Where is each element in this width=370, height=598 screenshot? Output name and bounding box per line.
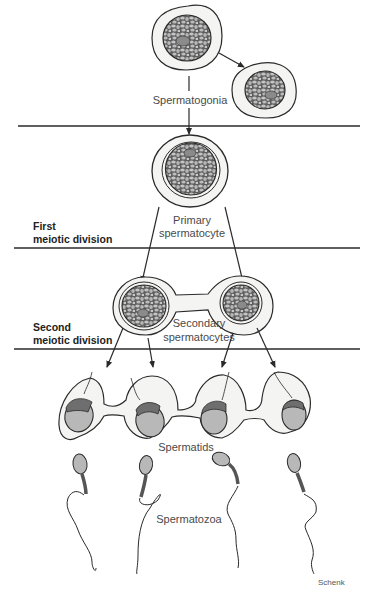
- credit-author: Schenk: [318, 578, 346, 587]
- arrow-to-secondary-left: [142, 207, 159, 282]
- label-secondary-line1: Secondary: [173, 317, 226, 329]
- spermatozoon-4: [286, 452, 317, 574]
- arrow-to-spermatid-4: [257, 328, 275, 367]
- arrow-division: [219, 53, 244, 67]
- spermatogonium-cell-1: [152, 5, 222, 70]
- phase-second-line2: meiotic division: [33, 334, 112, 346]
- phase-first-line1: First: [33, 220, 56, 232]
- phase-second-line1: Second: [33, 321, 71, 333]
- label-primary-line1: Primary: [173, 214, 211, 226]
- label-spermatogonia: Spermatogonia: [153, 94, 228, 106]
- spermatozoon-3: [210, 450, 238, 568]
- spermatids-chain: [59, 372, 310, 440]
- spermatogonium-cell-2: [232, 63, 296, 118]
- spermatogenesis-diagram: Spermatogonia Primary spermatocyte First…: [0, 0, 370, 598]
- label-primary-line2: spermatocyte: [159, 227, 225, 239]
- arrow-to-spermatid-2: [148, 338, 153, 367]
- label-spermatozoa: Spermatozoa: [156, 513, 222, 525]
- phase-first-line2: meiotic division: [33, 233, 112, 245]
- label-secondary-line2: spermatocytes: [163, 331, 235, 343]
- spermatozoon-1: [67, 453, 96, 570]
- primary-spermatocyte-cell: [152, 135, 228, 207]
- label-spermatids: Spermatids: [158, 441, 214, 453]
- arrow-to-secondary-right: [225, 207, 243, 282]
